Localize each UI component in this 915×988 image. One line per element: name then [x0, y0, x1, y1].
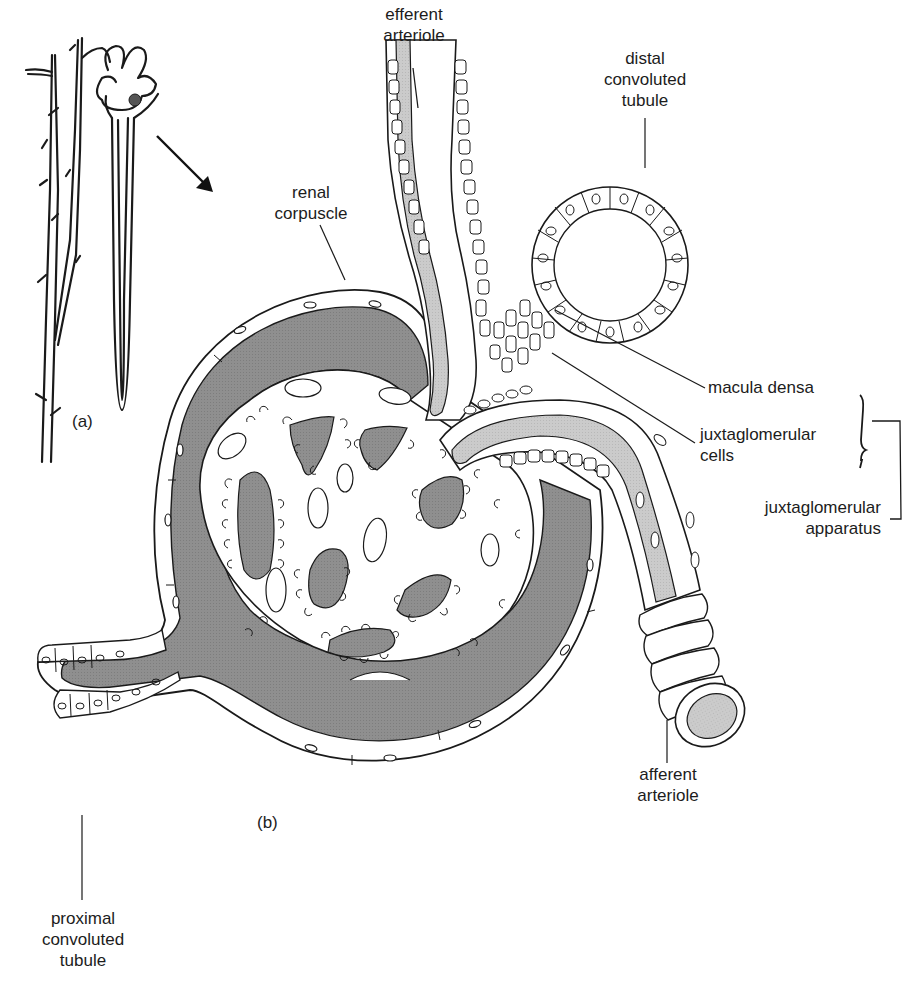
panel-arrow-icon — [157, 136, 213, 192]
label-juxtaglomerular-cells: juxtaglomerular cells — [700, 424, 816, 466]
diagram-artwork — [0, 0, 915, 988]
label-juxtaglomerular-apparatus: juxtaglomerular apparatus — [733, 497, 881, 539]
label-efferent-arteriole: efferent arteriole — [374, 4, 454, 46]
nephron-diagram: (a) (b) efferent arteriole distal convol… — [0, 0, 915, 988]
label-panel-a: (a) — [72, 411, 93, 432]
label-panel-b: (b) — [257, 812, 278, 833]
label-renal-corpuscle: renal corpuscle — [268, 182, 354, 224]
label-proximal-convoluted-tubule: proximal convoluted tubule — [33, 908, 133, 971]
distal-convoluted-tubule — [476, 187, 688, 372]
label-macula-densa: macula densa — [708, 377, 814, 398]
label-afferent-arteriole: afferent arteriole — [628, 764, 708, 806]
label-distal-convoluted-tubule: distal convoluted tubule — [595, 48, 695, 111]
panel-a-nephron-sketch — [26, 38, 158, 462]
leader-renal-corpuscle — [320, 225, 345, 280]
